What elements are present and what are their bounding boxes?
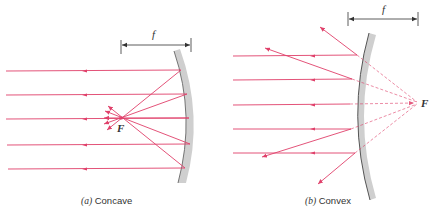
convex-incoming-rays bbox=[233, 55, 357, 153]
convex-reflected-rays bbox=[262, 27, 357, 184]
concave-diagram bbox=[6, 38, 194, 183]
convex-dimension-label: f bbox=[382, 3, 385, 15]
concave-dimension-label: f bbox=[152, 28, 155, 40]
convex-diagram bbox=[233, 12, 418, 200]
concave-mirror bbox=[174, 49, 194, 183]
concave-caption-text: Concave bbox=[95, 195, 133, 206]
concave-reflected-rays bbox=[104, 70, 190, 168]
concave-caption-prefix: (a) bbox=[81, 196, 92, 206]
convex-mirror bbox=[358, 33, 376, 200]
convex-caption: (b) Convex bbox=[305, 195, 351, 206]
convex-caption-text: Convex bbox=[319, 195, 351, 206]
mirror-diagram bbox=[0, 0, 432, 212]
convex-focal-label: F bbox=[421, 97, 428, 109]
concave-focal-label: F bbox=[117, 122, 124, 134]
concave-caption: (a) Concave bbox=[81, 195, 132, 206]
convex-caption-prefix: (b) bbox=[305, 196, 316, 206]
